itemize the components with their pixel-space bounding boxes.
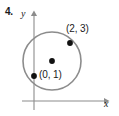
point-marker-0-1 <box>31 73 37 79</box>
figure-canvas <box>0 0 119 116</box>
y-axis-label: y <box>21 9 25 19</box>
center-point-marker <box>49 58 55 64</box>
y-axis-arrowhead <box>31 11 37 17</box>
geometry-figure: 4. y x (2, 3) (0, 1) <box>0 0 119 116</box>
x-axis-group <box>22 98 110 104</box>
point-label-0-1: (0, 1) <box>39 70 62 80</box>
problem-number-label: 4. <box>5 7 13 17</box>
point-marker-2-3 <box>67 40 73 46</box>
point-label-2-3: (2, 3) <box>66 24 89 34</box>
y-axis-group <box>31 11 37 111</box>
x-axis-label: x <box>104 99 108 109</box>
